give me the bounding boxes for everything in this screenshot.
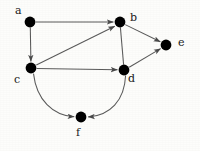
edge-c-to-b — [36, 26, 115, 65]
node-label-f: f — [76, 127, 80, 138]
node-label-a: a — [15, 5, 22, 16]
edge-d-to-e — [129, 49, 160, 68]
edge-c-to-f — [34, 74, 75, 117]
edge-a-to-c — [30, 27, 31, 61]
graph-canvas — [0, 0, 200, 151]
edges-group — [30, 22, 160, 117]
edge-c-to-d — [37, 68, 118, 69]
node-c[interactable] — [26, 63, 37, 74]
graph-figure: a b c d e f — [0, 0, 200, 151]
edge-b-to-d — [120, 27, 123, 64]
node-label-b: b — [130, 12, 137, 23]
node-label-c: c — [14, 74, 20, 85]
node-label-d: d — [128, 73, 135, 84]
node-a[interactable] — [25, 17, 36, 28]
edge-d-to-f — [88, 75, 125, 117]
node-e[interactable] — [161, 40, 172, 51]
node-label-e: e — [178, 37, 185, 48]
node-b[interactable] — [115, 17, 126, 28]
node-f[interactable] — [76, 112, 87, 123]
edge-b-to-e — [125, 25, 160, 42]
